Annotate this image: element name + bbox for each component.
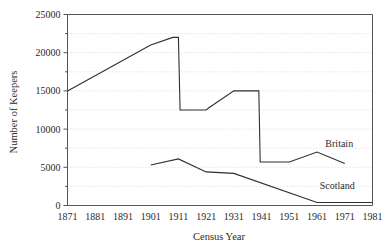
x-tick-label: 1951 — [279, 211, 299, 222]
x-tick-label: 1961 — [307, 211, 327, 222]
x-tick-label: 1981 — [363, 211, 383, 222]
series-annotation-scotland: Scotland — [320, 180, 355, 191]
x-tick-label: 1891 — [113, 211, 133, 222]
y-axis-title: Number of Keepers — [8, 71, 19, 154]
chart-figure: 0500010000150002000025000 18711881189119… — [0, 0, 389, 251]
x-axis-title: Census Year — [193, 231, 245, 242]
x-tick-label: 1901 — [141, 211, 161, 222]
y-tick-label: 25000 — [36, 9, 61, 20]
x-tick-label: 1871 — [58, 211, 78, 222]
y-tick-label: 20000 — [36, 47, 61, 58]
x-tick-label: 1921 — [196, 211, 216, 222]
series-annotation-britain: Britain — [325, 138, 353, 149]
y-tick-label: 10000 — [36, 124, 61, 135]
y-tick-label: 15000 — [36, 85, 61, 96]
x-tick-label: 1941 — [252, 211, 272, 222]
x-tick-label: 1971 — [335, 211, 355, 222]
x-tick-label: 1911 — [169, 211, 189, 222]
y-tick-label: 5000 — [41, 162, 61, 173]
line-chart: 0500010000150002000025000 18711881189119… — [0, 0, 389, 251]
x-tick-label: 1931 — [224, 211, 244, 222]
x-tick-label: 1881 — [85, 211, 105, 222]
y-tick-label: 0 — [56, 200, 61, 211]
